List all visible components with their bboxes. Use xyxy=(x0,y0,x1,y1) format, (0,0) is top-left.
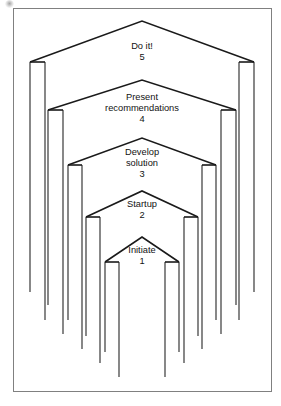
stage-label-text-7: 3 xyxy=(139,169,144,179)
nested-chevron-diagram: Do it!5Presentrecommendations4Developsol… xyxy=(0,0,281,406)
stage-label-text-2: Present xyxy=(126,92,158,102)
stage-label-text-11: 1 xyxy=(139,256,144,266)
stage-label-text-1: 5 xyxy=(139,52,144,62)
stage-label-text-8: Startup xyxy=(127,199,157,209)
stage-label-text-9: 2 xyxy=(139,210,144,220)
stage-label-text-0: Do it! xyxy=(131,41,153,51)
figure-root: Do it!5Presentrecommendations4Developsol… xyxy=(0,0,281,406)
stage-label-text-4: 4 xyxy=(139,114,144,124)
stage-label-text-5: Develop xyxy=(125,147,159,157)
stage-label-text-3: recommendations xyxy=(105,103,179,113)
stage-label-text-10: Initiate xyxy=(128,245,155,255)
stage-label-text-6: solution xyxy=(126,158,158,168)
